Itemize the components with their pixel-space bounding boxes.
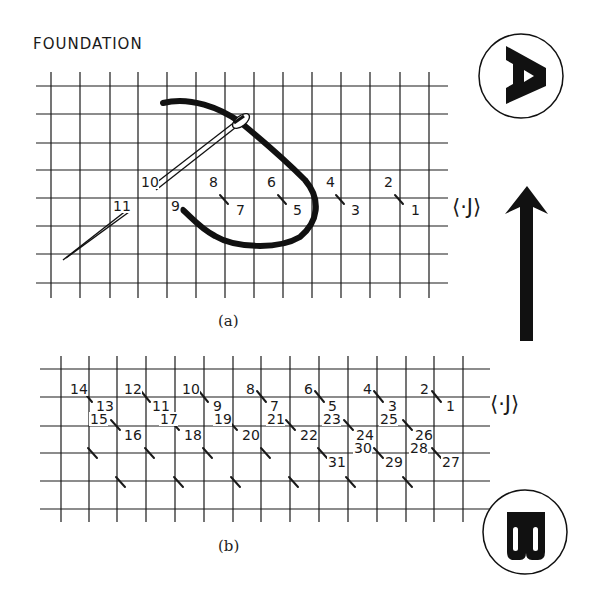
stitch-number-label: 7 (236, 202, 245, 218)
stitch-number-label: 29 (385, 454, 403, 470)
stitch-number-label: 23 (323, 411, 341, 427)
stitch-number-label: 31 (328, 454, 346, 470)
stitch-number-label: 8 (209, 174, 218, 190)
stitch-number-label: 9 (171, 198, 180, 214)
stitch-number-label: 5 (293, 202, 302, 218)
stitch-number-label: 18 (184, 427, 202, 443)
stitch-number-label: 17 (160, 411, 178, 427)
needle-11-icon (63, 210, 129, 260)
stitch-number-label: 10 (141, 174, 159, 190)
stitch-number-label: 21 (267, 411, 285, 427)
stitch-number-label: 3 (351, 202, 360, 218)
letter-b-rotated-icon (507, 512, 545, 560)
stitch-number-label: 20 (242, 427, 260, 443)
stitch-number-label: 1 (446, 398, 455, 414)
stitch-number-label: 12 (124, 381, 142, 397)
stitch-number-label: 30 (354, 440, 372, 456)
diagram-canvas: 2143658710911 ⟨·J⟩ (0, 0, 611, 615)
stitch-number-label: 10 (182, 381, 200, 397)
direction-symbol-a: ⟨·J⟩ (452, 195, 481, 219)
stitch-number-label: 11 (113, 198, 131, 214)
stitch-number-label: 2 (384, 174, 393, 190)
stitch-number-label: 19 (214, 411, 232, 427)
badge-a (479, 34, 563, 118)
stitch-number-label: 6 (267, 174, 276, 190)
stitch-number-label: 2 (420, 381, 429, 397)
direction-symbol-b: ⟨·J⟩ (490, 392, 519, 416)
labels-a: 2143658710911 (112, 174, 421, 218)
badge-b (483, 490, 567, 574)
stitch-number-label: 15 (90, 411, 108, 427)
up-arrow-icon (505, 186, 548, 341)
stitch-number-label: 6 (304, 381, 313, 397)
stitch-number-label: 1 (411, 202, 420, 218)
stitch-number-label: 27 (442, 454, 460, 470)
stitch-number-label: 25 (380, 411, 398, 427)
stitch-number-label: 22 (300, 427, 318, 443)
stitch-number-label: 4 (363, 381, 372, 397)
stitch-number-label: 16 (124, 427, 142, 443)
stitch-number-label: 28 (410, 440, 428, 456)
stitch-number-label: 4 (326, 174, 335, 190)
stitch-number-label: 8 (246, 381, 255, 397)
stitch-number-label: 14 (70, 381, 88, 397)
